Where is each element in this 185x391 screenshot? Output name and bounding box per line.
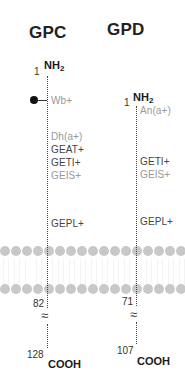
c-terminus-residue-number: 128 bbox=[27, 349, 44, 360]
c-terminus-label: COOH bbox=[137, 355, 170, 367]
antigen-label: GETI+ bbox=[51, 157, 81, 168]
lipid-head-icon bbox=[44, 246, 54, 256]
antigen-label: Dh(a+) bbox=[51, 131, 82, 142]
lipid-head-icon bbox=[0, 284, 10, 294]
lipid-head-icon bbox=[44, 284, 54, 294]
lipid-head-icon bbox=[143, 284, 153, 294]
antigen-label: GEPL+ bbox=[51, 218, 84, 229]
n-terminus-residue-number: 1 bbox=[34, 66, 40, 77]
antigen-label: An(a+) bbox=[140, 105, 171, 116]
c-terminus-label: COOH bbox=[48, 358, 81, 370]
membrane-outer-leaflet bbox=[0, 246, 185, 257]
antigen-label: GEIS+ bbox=[140, 169, 170, 180]
lipid-head-icon bbox=[33, 246, 43, 256]
lipid-head-icon bbox=[66, 246, 76, 256]
chain-break-symbol: ≈ bbox=[41, 311, 48, 321]
antigen-label: Wb+ bbox=[51, 95, 72, 106]
lipid-head-icon bbox=[88, 246, 98, 256]
lipid-head-icon bbox=[77, 284, 87, 294]
membrane-lipid-tails bbox=[0, 259, 185, 285]
membrane-inner-leaflet bbox=[0, 284, 185, 295]
polypeptide-chain-extracellular bbox=[136, 106, 137, 306]
polypeptide-chain-extracellular bbox=[47, 76, 48, 308]
lipid-head-icon bbox=[66, 284, 76, 294]
n-terminus-label: NH2 bbox=[44, 59, 64, 73]
lipid-head-icon bbox=[132, 246, 142, 256]
lipid-head-icon bbox=[33, 284, 43, 294]
lipid-head-icon bbox=[176, 284, 185, 294]
c-terminus-residue-number: 107 bbox=[117, 345, 134, 356]
n-terminus-residue-number: 1 bbox=[124, 97, 130, 108]
lipid-head-icon bbox=[110, 284, 120, 294]
n-terminus-label: NH2 bbox=[133, 91, 153, 105]
antigen-label: GETI+ bbox=[140, 156, 170, 167]
protein-title: GPD bbox=[107, 20, 144, 40]
lipid-head-icon bbox=[165, 246, 175, 256]
polypeptide-chain-cytoplasmic bbox=[136, 322, 137, 344]
lipid-head-icon bbox=[22, 284, 32, 294]
lipid-head-icon bbox=[99, 284, 109, 294]
glycan-marker-stem bbox=[36, 100, 47, 101]
antigen-label: GEPL+ bbox=[140, 216, 173, 227]
antigen-label: GEIS+ bbox=[51, 170, 81, 181]
lipid-head-icon bbox=[121, 284, 131, 294]
lipid-head-icon bbox=[154, 246, 164, 256]
lipid-head-icon bbox=[77, 246, 87, 256]
lipid-head-icon bbox=[143, 246, 153, 256]
lipid-head-icon bbox=[11, 246, 21, 256]
lipid-head-icon bbox=[121, 246, 131, 256]
lipid-head-icon bbox=[88, 284, 98, 294]
antigen-label: GEAT+ bbox=[51, 144, 84, 155]
protein-title: GPC bbox=[29, 23, 66, 43]
chain-break-symbol: ≈ bbox=[130, 310, 137, 320]
polypeptide-chain-cytoplasmic bbox=[47, 324, 48, 348]
lipid-head-icon bbox=[0, 246, 10, 256]
lipid-head-icon bbox=[110, 246, 120, 256]
lipid-head-icon bbox=[154, 284, 164, 294]
lipid-head-icon bbox=[176, 246, 185, 256]
lipid-head-icon bbox=[99, 246, 109, 256]
lipid-head-icon bbox=[132, 284, 142, 294]
lipid-head-icon bbox=[55, 246, 65, 256]
membrane-exit-residue-number: 71 bbox=[122, 296, 133, 307]
lipid-head-icon bbox=[165, 284, 175, 294]
lipid-head-icon bbox=[55, 284, 65, 294]
lipid-head-icon bbox=[22, 246, 32, 256]
lipid-head-icon bbox=[11, 284, 21, 294]
